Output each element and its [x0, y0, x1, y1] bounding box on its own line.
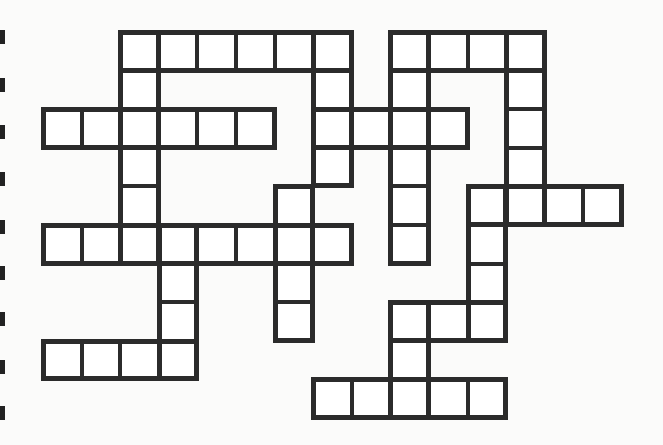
crossword-cell[interactable] — [43, 225, 82, 264]
crossword-cell[interactable] — [390, 186, 429, 225]
margin-mark — [0, 78, 5, 92]
crossword-cell[interactable] — [468, 225, 507, 264]
crossword-cell[interactable] — [468, 379, 507, 418]
crossword-cell[interactable] — [390, 109, 429, 148]
margin-mark — [0, 312, 5, 326]
crossword-cell[interactable] — [506, 109, 545, 148]
crossword-cell[interactable] — [506, 71, 545, 110]
crossword-cell[interactable] — [43, 341, 82, 380]
crossword-cell[interactable] — [352, 109, 391, 148]
crossword-cell[interactable] — [82, 109, 121, 148]
crossword-cell[interactable] — [390, 341, 429, 380]
crossword-cell[interactable] — [545, 186, 584, 225]
crossword-cell[interactable] — [120, 186, 159, 225]
crossword-cell[interactable] — [275, 186, 314, 225]
margin-mark — [0, 125, 5, 139]
crossword-cell[interactable] — [82, 341, 121, 380]
crossword-cell[interactable] — [159, 109, 198, 148]
crossword-cell[interactable] — [506, 186, 545, 225]
margin-mark — [0, 360, 5, 374]
crossword-cell[interactable] — [390, 148, 429, 187]
crossword-cell[interactable] — [159, 302, 198, 341]
crossword-cell[interactable] — [352, 379, 391, 418]
crossword-cell[interactable] — [275, 302, 314, 341]
crossword-cell[interactable] — [313, 379, 352, 418]
crossword-cell[interactable] — [159, 264, 198, 303]
crossword-cell[interactable] — [82, 225, 121, 264]
crossword-cell[interactable] — [197, 225, 236, 264]
crossword-cell[interactable] — [390, 225, 429, 264]
crossword-cell[interactable] — [159, 32, 198, 71]
crossword-cell[interactable] — [468, 186, 507, 225]
crossword-cell[interactable] — [468, 32, 507, 71]
crossword-cell[interactable] — [275, 32, 314, 71]
crossword-cell[interactable] — [468, 264, 507, 303]
crossword-cell[interactable] — [583, 186, 622, 225]
crossword-cell[interactable] — [429, 32, 468, 71]
crossword-cell[interactable] — [313, 148, 352, 187]
margin-mark — [0, 220, 5, 234]
crossword-cell[interactable] — [313, 109, 352, 148]
crossword-cell[interactable] — [506, 148, 545, 187]
crossword-cell[interactable] — [159, 341, 198, 380]
crossword-cell[interactable] — [390, 302, 429, 341]
crossword-cell[interactable] — [197, 109, 236, 148]
crossword-cell[interactable] — [313, 225, 352, 264]
crossword-cell[interactable] — [120, 148, 159, 187]
crossword-cell[interactable] — [120, 32, 159, 71]
crossword-cell[interactable] — [275, 264, 314, 303]
crossword-cell[interactable] — [429, 379, 468, 418]
crossword-cell[interactable] — [236, 32, 275, 71]
crossword-cell[interactable] — [120, 341, 159, 380]
crossword-cell[interactable] — [313, 71, 352, 110]
crossword-cell[interactable] — [468, 302, 507, 341]
crossword-cell[interactable] — [390, 71, 429, 110]
crossword-cell[interactable] — [313, 32, 352, 71]
crossword-cell[interactable] — [159, 225, 198, 264]
crossword-cell[interactable] — [506, 32, 545, 71]
crossword-cell[interactable] — [390, 379, 429, 418]
crossword-cell[interactable] — [197, 32, 236, 71]
crossword-cell[interactable] — [236, 109, 275, 148]
crossword-cell[interactable] — [236, 225, 275, 264]
crossword-cell[interactable] — [429, 109, 468, 148]
crossword-cell[interactable] — [120, 71, 159, 110]
crossword-cell[interactable] — [120, 225, 159, 264]
margin-mark — [0, 30, 5, 44]
margin-mark — [0, 406, 5, 420]
crossword-cell[interactable] — [390, 32, 429, 71]
margin-mark — [0, 172, 5, 186]
crossword-cell[interactable] — [429, 302, 468, 341]
crossword-cell[interactable] — [120, 109, 159, 148]
crossword-cell[interactable] — [275, 225, 314, 264]
crossword-grid — [0, 0, 663, 445]
margin-mark — [0, 266, 5, 280]
crossword-cell[interactable] — [43, 109, 82, 148]
